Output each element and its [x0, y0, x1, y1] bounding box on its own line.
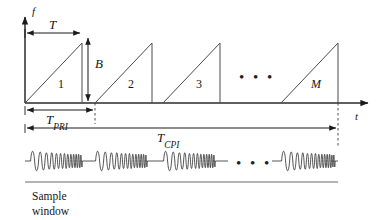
pulse-train-ellipsis: • • • [239, 69, 275, 86]
sawtooth-pulse-m [281, 43, 338, 103]
sawtooth-pulse-1 [25, 43, 82, 103]
sawtooth-pulse-3 [163, 43, 220, 103]
sawtooth-pulse-2 [95, 43, 152, 103]
chirp-waveform-train [25, 151, 338, 171]
waveform-ellipsis: • • • [236, 155, 272, 172]
sample-window-caption-line1: Sample [32, 190, 67, 203]
chirp-burst-m [272, 151, 338, 171]
pri-subscript: PRI [53, 122, 68, 132]
chirp-burst-2 [92, 151, 160, 171]
pulse-label-m: M [311, 78, 321, 90]
time-axis-label: t [355, 111, 358, 122]
pulse-label-1: 1 [58, 78, 64, 90]
lfm-waveform-figure: f t T B 1 2 3 M • • • TPRI TCPI • • • Sa… [0, 0, 391, 220]
chirp-burst-1 [25, 151, 92, 171]
sample-window-caption-line2: window [32, 205, 69, 218]
pulse-label-2: 2 [128, 78, 134, 90]
frequency-axis-label: f [32, 6, 35, 17]
cpi-subscript: CPI [164, 140, 179, 150]
bandwidth-label: B [95, 57, 103, 70]
pulse-label-3: 3 [196, 78, 202, 90]
chirp-burst-3 [160, 151, 228, 171]
figure-canvas [0, 0, 391, 220]
sweep-time-label: T [49, 18, 56, 31]
pri-label: TPRI [46, 113, 68, 130]
cpi-dimension [25, 124, 336, 133]
cpi-label: TCPI [157, 131, 179, 148]
